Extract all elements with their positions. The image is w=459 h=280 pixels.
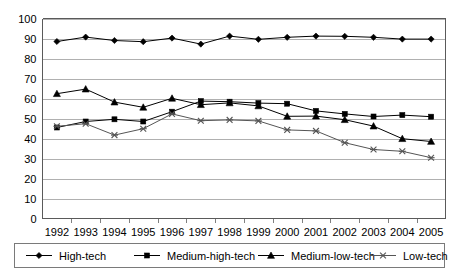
y-axis-tick-label: 80 <box>24 53 36 65</box>
marker-x <box>197 118 204 124</box>
x-axis-tick-label: 1996 <box>160 226 184 238</box>
y-axis-tick-label: 40 <box>24 133 36 145</box>
marker-diamond <box>313 33 319 39</box>
x-axis-tick-label: 2003 <box>361 226 385 238</box>
x-axis-tick-label: 1992 <box>45 226 69 238</box>
marker-square <box>145 253 150 258</box>
series-high-tech <box>54 33 434 47</box>
marker-square <box>141 119 146 124</box>
marker-square <box>429 114 434 119</box>
marker-x <box>312 128 319 134</box>
axis-lines <box>43 19 446 219</box>
marker-x <box>226 117 233 123</box>
marker-x <box>111 132 118 138</box>
y-axis-tick-label: 60 <box>24 93 36 105</box>
y-axis-tick-label: 10 <box>24 193 36 205</box>
x-axis-tick-labels: 1992199319941995199619971998199920002001… <box>45 226 444 238</box>
x-axis-tick-label: 1998 <box>217 226 241 238</box>
x-axis-tick-label: 2001 <box>304 226 328 238</box>
x-axis-tick-label: 1995 <box>131 226 155 238</box>
y-axis-tick-label: 90 <box>24 33 36 45</box>
marker-diamond <box>198 41 204 47</box>
x-axis-tick-label: 1997 <box>189 226 213 238</box>
marker-x <box>255 118 262 124</box>
marker-diamond <box>428 36 434 42</box>
y-axis-tick-label: 0 <box>30 213 36 225</box>
legend-label: Medium-high-tech <box>167 250 255 262</box>
series-medium-low-tech <box>53 86 434 145</box>
x-axis-tick-label: 1994 <box>102 226 126 238</box>
y-axis-tick-labels: 0102030405060708090100 <box>18 13 36 225</box>
marker-diamond <box>169 35 175 41</box>
y-axis-tick-label: 20 <box>24 173 36 185</box>
marker-square <box>285 101 290 106</box>
marker-x <box>140 126 147 132</box>
marker-diamond <box>111 37 117 43</box>
marker-x <box>284 127 291 133</box>
legend-label: Low-tech <box>403 250 448 262</box>
marker-x <box>399 148 406 154</box>
y-axis-tick-label: 100 <box>18 13 36 25</box>
y-axis-tick-label: 70 <box>24 73 36 85</box>
marker-diamond <box>399 36 405 42</box>
series-low-tech <box>53 111 434 161</box>
line-chart: 0102030405060708090100 19921993199419951… <box>0 0 459 280</box>
marker-triangle <box>82 86 89 92</box>
legend-label: Medium-low-tech <box>291 250 375 262</box>
marker-square <box>371 114 376 119</box>
x-axis-tick-marks <box>72 219 418 223</box>
marker-triangle <box>169 95 176 101</box>
chart-container: 0102030405060708090100 19921993199419951… <box>0 0 459 280</box>
marker-x <box>370 147 377 153</box>
x-axis-tick-label: 1993 <box>73 226 97 238</box>
marker-diamond <box>342 33 348 39</box>
x-axis-tick-label: 2000 <box>275 226 299 238</box>
x-axis-tick-label: 2002 <box>333 226 357 238</box>
y-axis-tick-label: 50 <box>24 113 36 125</box>
x-axis-tick-label: 2004 <box>390 226 414 238</box>
series-medium-high-tech <box>54 99 433 130</box>
data-series <box>53 33 434 161</box>
legend-label: High-tech <box>59 250 106 262</box>
marker-diamond <box>227 33 233 39</box>
x-axis-tick-label: 2005 <box>419 226 443 238</box>
marker-square <box>112 117 117 122</box>
marker-square <box>400 113 405 118</box>
marker-diamond <box>255 36 261 42</box>
chart-legend[interactable]: High-techMedium-high-techMedium-low-tech… <box>15 244 448 268</box>
y-axis-tick-label: 30 <box>24 153 36 165</box>
x-axis-tick-label: 1999 <box>246 226 270 238</box>
marker-x <box>341 140 348 146</box>
gridlines <box>43 20 446 200</box>
marker-triangle <box>399 135 406 141</box>
